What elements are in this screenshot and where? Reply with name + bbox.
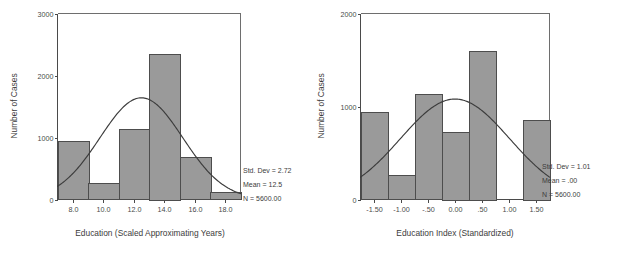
x-tick-label: 0.00 — [449, 205, 463, 214]
stat-mean-left: Mean = 12.5 — [243, 181, 282, 188]
stat-n-left: N = 5600.00 — [243, 195, 281, 202]
x-tick-labels-left: 8.010.012.014.016.018.0 — [69, 205, 233, 214]
x-tick-label: 14.0 — [158, 205, 172, 214]
figure-container: 0100020003000 8.010.012.014.016.018.0 Nu… — [0, 0, 623, 258]
x-tick-label: 12.0 — [128, 205, 142, 214]
x-tick-label: 1.50 — [530, 205, 544, 214]
education-years-chart: 0100020003000 8.010.012.014.016.018.0 Nu… — [0, 0, 311, 258]
y-tick-label: 2000 — [38, 72, 54, 81]
histogram-bar — [470, 52, 497, 201]
y-axis-title-left: Number of Cases — [9, 73, 19, 138]
x-axis-title-right: Education Index (Standardized) — [396, 228, 514, 238]
stat-std-dev-right: Std. Dev = 1.01 — [542, 163, 591, 170]
histogram-bar — [443, 133, 470, 201]
y-tick-labels-left: 0100020003000 — [38, 10, 54, 205]
y-tick-label: 0 — [50, 196, 54, 205]
histogram-bar — [89, 184, 120, 200]
stat-n-right: N = 5600.00 — [542, 191, 580, 198]
x-tick-label: 1.00 — [503, 205, 517, 214]
x-tick-label: -1.50 — [366, 205, 382, 214]
stat-mean-right: Mean = .00 — [542, 177, 577, 184]
stat-std-dev-left: Std. Dev = 2.72 — [243, 167, 292, 174]
bars-right — [362, 52, 551, 201]
x-tick-label: -1.00 — [393, 205, 409, 214]
x-axis-title-left: Education (Scaled Approximating Years) — [75, 228, 225, 238]
x-tick-label: .50 — [478, 205, 488, 214]
education-index-chart: 010002000 -1.50-1.00-.500.00.501.001.50 … — [311, 0, 622, 258]
y-axis-title-right: Number of Cases — [316, 73, 326, 138]
histogram-bar — [120, 130, 151, 200]
histogram-bar — [181, 158, 212, 200]
y-tick-label: 1000 — [38, 134, 54, 143]
x-tick-labels-right: -1.50-1.00-.500.00.501.001.50 — [366, 205, 543, 214]
bars-left — [59, 55, 242, 201]
y-tick-label: 2000 — [341, 10, 357, 19]
chart-panel-education-years: 0100020003000 8.010.012.014.016.018.0 Nu… — [0, 0, 311, 258]
y-tick-label: 1000 — [341, 103, 357, 112]
x-tick-label: -.50 — [422, 205, 434, 214]
y-tick-label: 0 — [353, 196, 357, 205]
y-tick-label: 3000 — [38, 10, 54, 19]
x-tick-label: 16.0 — [189, 205, 203, 214]
histogram-bar — [389, 176, 416, 200]
chart-panel-education-index: 010002000 -1.50-1.00-.500.00.501.001.50 … — [311, 0, 622, 258]
y-tick-labels-right: 010002000 — [341, 10, 357, 205]
x-tick-label: 18.0 — [219, 205, 233, 214]
histogram-bar — [524, 121, 551, 201]
x-tick-label: 8.0 — [69, 205, 79, 214]
x-tick-label: 10.0 — [97, 205, 111, 214]
histogram-bar — [211, 193, 242, 200]
histogram-bar — [59, 142, 90, 200]
